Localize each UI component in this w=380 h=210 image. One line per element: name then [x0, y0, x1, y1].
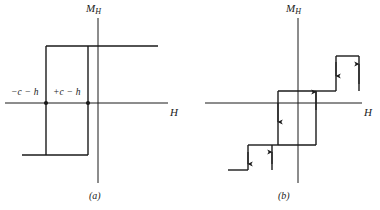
- panel-b-direction-arrows: [248, 62, 359, 164]
- panel-a-hysteresis-loop: [22, 46, 158, 155]
- panel-b-caption: (b): [278, 190, 290, 201]
- panel-a-negative-coercive-label: −c − h: [11, 87, 39, 97]
- panel-a-m-axis-label: MH: [86, 2, 101, 16]
- panel-b-m-axis-subscript: H: [295, 7, 301, 16]
- panel-a-h-axis-label: H: [170, 106, 178, 118]
- panel-a-caption: (a): [89, 190, 101, 201]
- hysteresis-figure: MH H −c − h +c − h (a) MH H (b): [0, 0, 380, 210]
- figure-canvas: [0, 0, 380, 210]
- panel-a-m-axis-subscript: H: [95, 7, 101, 16]
- panel-a-positive-switch-dot: [86, 101, 90, 105]
- panel-a-positive-coercive-label: +c − h: [53, 87, 81, 97]
- panel-a-negative-switch-dot: [44, 101, 48, 105]
- panel-b-axes: [205, 18, 362, 183]
- panel-a-axes: [5, 18, 168, 183]
- panel-b-m-axis-label: MH: [286, 2, 301, 16]
- panel-b-h-axis-label: H: [364, 106, 372, 118]
